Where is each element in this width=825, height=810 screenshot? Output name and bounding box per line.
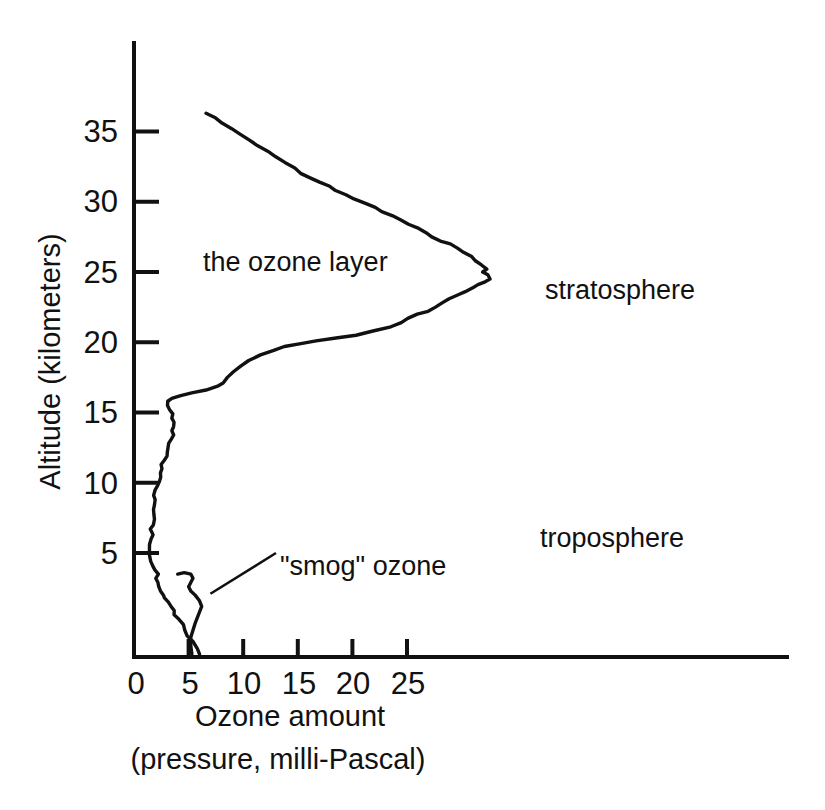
y-tick-label-30: 30: [70, 186, 118, 217]
annotation-troposphere: troposphere: [540, 525, 684, 552]
annotation-ozone-layer: the ozone layer: [203, 249, 388, 276]
smog-ozone-line: [178, 573, 202, 654]
x-tick-label-25: 25: [391, 668, 425, 699]
x-axis-title-line2: (pressure, milli-Pascal): [131, 745, 426, 774]
x-tick-label-5: 5: [181, 668, 198, 699]
smog-ozone-leader-line: [210, 553, 276, 594]
ozone-profile-figure: 0 5 10 15 20 25 5 10 15 20 25 30 35 Alti…: [0, 0, 825, 810]
x-axis-title-line1: Ozone amount: [195, 702, 385, 731]
axis-lines: [134, 43, 787, 657]
y-tick-label-15: 15: [70, 397, 118, 428]
y-tick-label-20: 20: [70, 327, 118, 358]
x-tick-label-0: 0: [127, 668, 144, 699]
x-tick-label-20: 20: [336, 668, 370, 699]
x-axis-ticks: [189, 641, 407, 657]
annotation-stratosphere: stratosphere: [545, 277, 695, 304]
annotation-smog-ozone: "smog" ozone: [280, 553, 446, 580]
y-tick-label-10: 10: [70, 468, 118, 499]
x-tick-label-15: 15: [282, 668, 316, 699]
y-tick-label-25: 25: [70, 257, 118, 288]
annotation-leader-line-group: [210, 553, 276, 594]
y-tick-label-5: 5: [70, 538, 118, 569]
x-tick-label-10: 10: [227, 668, 261, 699]
y-tick-label-35: 35: [70, 116, 118, 147]
